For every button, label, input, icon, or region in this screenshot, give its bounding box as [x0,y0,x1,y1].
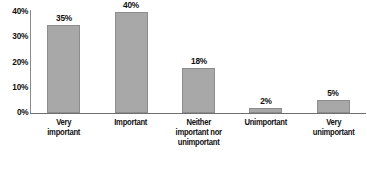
bar-4[interactable]: 5% [317,12,350,113]
y-tick-label-40: 40% [12,7,28,16]
bar-1[interactable]: 40% [115,12,148,113]
category-label-line: important [33,127,94,137]
bar-chart: 0%10%20%30%40% 35%40%18%2%5% Veryimporta… [0,0,367,172]
bar-rect-1 [115,12,148,113]
category-label-1: Important [101,117,162,127]
x-axis-category-labels: VeryimportantImportantNeitherimportant n… [30,117,367,172]
category-label-line: Unimportant [236,117,297,127]
category-label-line: Important [101,117,162,127]
category-label-line: unimportant [168,137,229,147]
x-axis-line [30,113,366,114]
y-tick-label-0: 0% [17,108,28,117]
bar-rect-2 [182,68,215,113]
bar-rect-3 [249,108,282,113]
category-label-2: Neitherimportant norunimportant [168,117,229,147]
bar-3[interactable]: 2% [249,12,282,113]
plot-area: 35%40%18%2%5% [30,12,367,113]
bar-value-label-2: 18% [191,57,207,66]
bar-0[interactable]: 35% [47,12,80,113]
bar-rect-0 [47,25,80,113]
y-tick-label-20: 20% [12,58,28,67]
category-label-line: Very [33,117,94,127]
bar-value-label-1: 40% [123,1,139,10]
bar-rect-4 [317,100,350,113]
category-label-line: important nor [168,127,229,137]
category-label-line: unimportant [303,127,364,137]
bar-value-label-3: 2% [260,97,271,106]
category-label-4: Veryunimportant [303,117,364,137]
y-tick-label-30: 30% [12,32,28,41]
y-axis: 0%10%20%30%40% [0,0,29,120]
category-label-line: Neither [168,117,229,127]
category-label-0: Veryimportant [33,117,94,137]
bar-value-label-4: 5% [328,89,339,98]
bar-value-label-0: 35% [56,14,72,23]
bar-2[interactable]: 18% [182,12,215,113]
y-tick-label-10: 10% [12,83,28,92]
category-label-3: Unimportant [236,117,297,127]
category-label-line: Very [303,117,364,127]
